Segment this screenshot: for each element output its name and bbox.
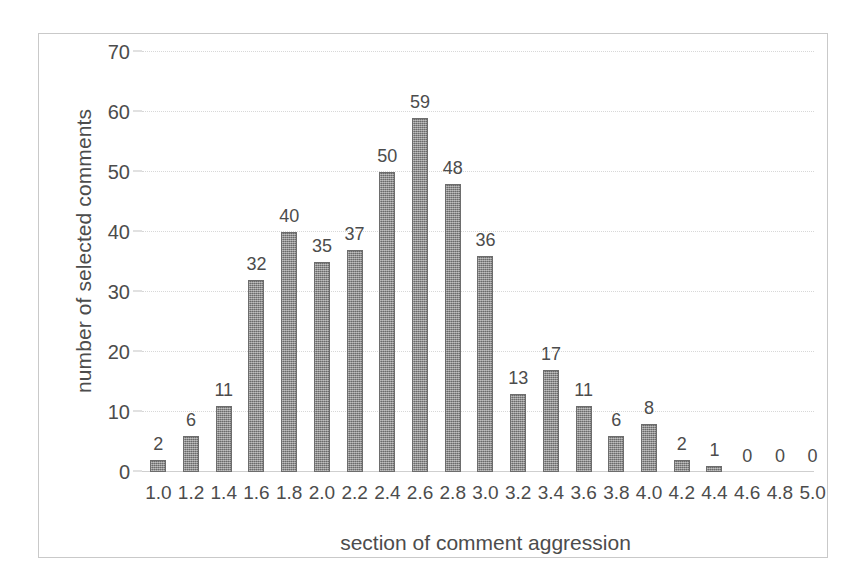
bar[interactable] bbox=[641, 424, 657, 472]
x-axis-tick-label: 2.6 bbox=[407, 482, 433, 504]
y-axis-tick-mark bbox=[133, 171, 142, 172]
bar-slot[interactable]: 14.4 bbox=[698, 52, 731, 472]
bar-value-label: 59 bbox=[410, 93, 430, 111]
bar[interactable] bbox=[314, 262, 330, 472]
y-axis-tick-label: 50 bbox=[108, 161, 130, 184]
bar[interactable] bbox=[150, 460, 166, 472]
bar[interactable] bbox=[576, 406, 592, 472]
bar-value-label: 11 bbox=[574, 381, 593, 399]
bar-slot[interactable]: 21.0 bbox=[142, 52, 175, 472]
x-axis-tick-label: 4.0 bbox=[636, 482, 662, 504]
y-axis-tick-mark bbox=[133, 291, 142, 292]
bar-value-label: 35 bbox=[312, 237, 332, 255]
y-axis-tick-label: 40 bbox=[108, 221, 130, 244]
y-axis-tick-label: 60 bbox=[108, 101, 130, 124]
bar-value-label: 32 bbox=[246, 255, 266, 273]
y-axis-tick-label: 30 bbox=[108, 281, 130, 304]
bar-slot[interactable]: 173.4 bbox=[535, 52, 568, 472]
bar-value-label: 8 bbox=[644, 399, 654, 417]
bar-value-label: 0 bbox=[775, 447, 785, 465]
bar-value-label: 40 bbox=[279, 207, 299, 225]
bar-value-label: 2 bbox=[153, 435, 163, 453]
chart-plot-frame: number of selected comments 010203040506… bbox=[38, 33, 828, 558]
bar[interactable] bbox=[674, 460, 690, 472]
bar[interactable] bbox=[477, 256, 493, 472]
bar-slot[interactable]: 04.6 bbox=[731, 52, 764, 472]
y-axis-tick-mark bbox=[133, 411, 142, 412]
bar-value-label: 48 bbox=[443, 159, 463, 177]
bar-slot[interactable]: 401.8 bbox=[273, 52, 306, 472]
bar-slot[interactable]: 05.0 bbox=[796, 52, 829, 472]
bar-value-label: 1 bbox=[709, 441, 719, 459]
bar-slot[interactable]: 363.0 bbox=[469, 52, 502, 472]
bar-slot[interactable]: 133.2 bbox=[502, 52, 535, 472]
bar-value-label: 37 bbox=[345, 225, 365, 243]
x-axis-tick-label: 3.6 bbox=[570, 482, 596, 504]
bar-slot[interactable]: 04.8 bbox=[764, 52, 797, 472]
x-axis-tick-label: 1.8 bbox=[276, 482, 302, 504]
bar[interactable] bbox=[543, 370, 559, 472]
x-axis-tick-label: 1.4 bbox=[211, 482, 237, 504]
y-axis-tick-mark bbox=[133, 351, 142, 352]
x-axis-tick-label: 3.8 bbox=[603, 482, 629, 504]
y-axis-tick-mark bbox=[133, 51, 142, 52]
bar-slot[interactable]: 502.4 bbox=[371, 52, 404, 472]
x-axis-tick-label: 2.0 bbox=[309, 482, 335, 504]
x-axis-tick-label: 4.4 bbox=[701, 482, 727, 504]
x-axis-tick-label: 4.8 bbox=[767, 482, 793, 504]
x-axis-title: section of comment aggression bbox=[142, 531, 829, 555]
bar[interactable] bbox=[281, 232, 297, 472]
x-axis-tick-label: 4.6 bbox=[734, 482, 760, 504]
bar-value-label: 50 bbox=[377, 147, 397, 165]
bar[interactable] bbox=[379, 172, 395, 472]
x-axis-tick-label: 1.2 bbox=[178, 482, 204, 504]
bar-slot[interactable]: 111.4 bbox=[207, 52, 240, 472]
bar-slot[interactable]: 61.2 bbox=[175, 52, 208, 472]
bar-slot[interactable]: 592.6 bbox=[404, 52, 437, 472]
chart-figure: number of selected comments 010203040506… bbox=[0, 0, 864, 587]
x-axis-tick-label: 5.0 bbox=[799, 482, 825, 504]
x-axis-tick-label: 1.6 bbox=[243, 482, 269, 504]
bar-slot[interactable]: 321.6 bbox=[240, 52, 273, 472]
bar-slot[interactable]: 113.6 bbox=[567, 52, 600, 472]
bar-slot[interactable]: 84.0 bbox=[633, 52, 666, 472]
bar[interactable] bbox=[445, 184, 461, 472]
bar[interactable] bbox=[347, 250, 363, 472]
x-axis-tick-label: 3.4 bbox=[538, 482, 564, 504]
bar-value-label: 11 bbox=[214, 381, 233, 399]
bar-slot[interactable]: 352.0 bbox=[306, 52, 339, 472]
x-axis-tick-label: 4.2 bbox=[669, 482, 695, 504]
bar-value-label: 0 bbox=[808, 447, 818, 465]
bar-value-label: 2 bbox=[677, 435, 687, 453]
x-axis-tick-label: 1.0 bbox=[145, 482, 171, 504]
y-axis-tick-mark bbox=[133, 231, 142, 232]
y-axis-tick-label: 10 bbox=[108, 401, 130, 424]
x-axis-tick-label: 2.4 bbox=[374, 482, 400, 504]
bar[interactable] bbox=[412, 118, 428, 472]
bar-value-label: 6 bbox=[611, 411, 621, 429]
bar[interactable] bbox=[510, 394, 526, 472]
bar[interactable] bbox=[706, 466, 722, 472]
bar-slot[interactable]: 372.2 bbox=[338, 52, 371, 472]
x-axis-tick-label: 2.8 bbox=[440, 482, 466, 504]
x-axis-tick-label: 3.2 bbox=[505, 482, 531, 504]
y-axis-title: number of selected comments bbox=[72, 71, 96, 431]
bar-slot[interactable]: 482.8 bbox=[436, 52, 469, 472]
x-axis-tick-label: 2.2 bbox=[341, 482, 367, 504]
bar[interactable] bbox=[608, 436, 624, 472]
plot-area: 010203040506070 21.061.2111.4321.6401.83… bbox=[142, 52, 829, 472]
bar[interactable] bbox=[183, 436, 199, 472]
x-axis-tick-label: 3.0 bbox=[472, 482, 498, 504]
y-axis-tick-mark bbox=[133, 471, 142, 472]
bar-value-label: 17 bbox=[541, 345, 561, 363]
y-axis-tick-mark bbox=[133, 111, 142, 112]
y-axis-tick-label: 0 bbox=[119, 461, 130, 484]
bar-value-label: 36 bbox=[475, 231, 495, 249]
bar[interactable] bbox=[216, 406, 232, 472]
y-axis-tick-label: 20 bbox=[108, 341, 130, 364]
bar-slot[interactable]: 63.8 bbox=[600, 52, 633, 472]
bar[interactable] bbox=[248, 280, 264, 472]
bar-slot[interactable]: 24.2 bbox=[665, 52, 698, 472]
y-axis-tick-label: 70 bbox=[108, 41, 130, 64]
bar-value-label: 0 bbox=[742, 447, 752, 465]
